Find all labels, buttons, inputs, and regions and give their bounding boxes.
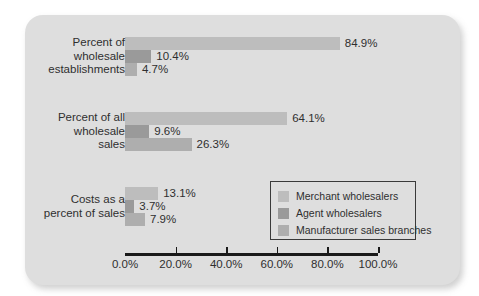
bar-value-label: 13.1% <box>163 187 196 200</box>
legend-item-3: Manufacturer sales branches <box>278 223 431 237</box>
legend-swatch-icon <box>278 191 289 202</box>
x-axis-tick <box>378 247 380 253</box>
x-axis-line <box>125 253 378 256</box>
bar-value-label: 84.9% <box>345 37 378 50</box>
legend-item-1: Merchant wholesalers <box>278 189 398 203</box>
bar-1-group-2 <box>125 112 287 125</box>
legend-label: Merchant wholesalers <box>296 190 398 202</box>
x-axis-tick <box>176 247 178 253</box>
bar-1-group-3 <box>125 187 158 200</box>
bar-value-label: 9.6% <box>154 125 180 138</box>
bar-value-label: 4.7% <box>142 63 168 76</box>
bar-value-label: 26.3% <box>197 138 230 151</box>
bar-2-group-3 <box>125 200 134 213</box>
category-label-1: Percent ofwholesaleestablishments <box>17 36 125 77</box>
x-axis-tick <box>226 247 228 253</box>
bar-value-label: 7.9% <box>150 213 176 226</box>
bar-1-group-1 <box>125 37 340 50</box>
bar-value-label: 64.1% <box>292 112 325 125</box>
plot-area: Merchant wholesalersAgent wholesalersMan… <box>25 15 460 285</box>
x-axis-tick <box>277 247 279 253</box>
category-label-3: Costs as apercent of sales <box>17 193 125 220</box>
bar-2-group-2 <box>125 125 149 138</box>
legend-label: Manufacturer sales branches <box>296 224 431 236</box>
legend-swatch-icon <box>278 225 289 236</box>
bar-2-group-1 <box>125 50 151 63</box>
bar-value-label: 10.4% <box>156 50 189 63</box>
legend-label: Agent wholesalers <box>296 207 382 219</box>
chart-legend: Merchant wholesalersAgent wholesalersMan… <box>270 181 416 240</box>
chart-card: Merchant wholesalersAgent wholesalersMan… <box>25 15 460 285</box>
bar-3-group-1 <box>125 63 137 76</box>
bar-3-group-3 <box>125 213 145 226</box>
bar-3-group-2 <box>125 138 192 151</box>
x-axis-tick-label: 100.0% <box>348 258 408 270</box>
legend-item-2: Agent wholesalers <box>278 206 382 220</box>
category-label-2: Percent of allwholesalesales <box>17 111 125 152</box>
chart-page: Merchant wholesalersAgent wholesalersMan… <box>0 0 479 296</box>
legend-swatch-icon <box>278 208 289 219</box>
bar-value-label: 3.7% <box>139 200 165 213</box>
x-axis-tick <box>327 247 329 253</box>
